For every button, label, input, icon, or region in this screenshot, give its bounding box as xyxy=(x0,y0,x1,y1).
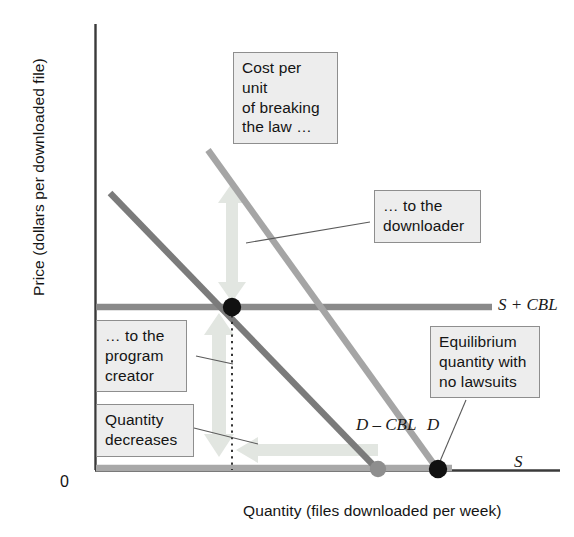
d-minus-cbl-on-s-marker xyxy=(370,461,386,477)
callout-equilibrium-no-lawsuits: Equilibrium quantity with no lawsuits xyxy=(430,326,540,398)
no-lawsuit-equilibrium-marker xyxy=(429,460,447,478)
callout-cost-per-unit: Cost per unit of breaking the law … xyxy=(233,52,338,144)
curve-label-supply: S xyxy=(514,452,523,472)
curve-label-demand: D xyxy=(427,415,439,435)
callout-quantity-decreases: Quantity decreases xyxy=(96,404,194,457)
callout-to-the-program-creator: … to the program creator xyxy=(96,320,187,392)
creator-cost-arrow xyxy=(204,313,234,457)
curve-label-demand-minus-cbl: D – CBL xyxy=(356,415,416,435)
origin-label: 0 xyxy=(60,473,69,491)
curve-label-supply-plus-cbl: S + CBL xyxy=(498,295,558,315)
figure-canvas: Price (dollars per downloaded file) Quan… xyxy=(0,0,574,537)
leader-line-equilibrium xyxy=(438,400,466,466)
y-axis-title: Price (dollars per downloaded file) xyxy=(30,58,48,296)
new-equilibrium-marker xyxy=(223,298,241,316)
x-axis-title: Quantity (files downloaded per week) xyxy=(243,502,502,520)
callout-to-the-downloader: … to the downloader xyxy=(374,190,481,243)
